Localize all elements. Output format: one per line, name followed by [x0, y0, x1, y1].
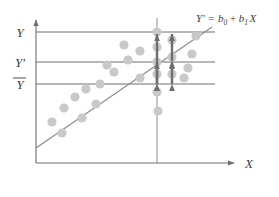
data-point [179, 73, 188, 82]
svg-text:Y′=b0+b1X: Y′=b0+b1X [196, 12, 257, 27]
equation-b0-subscript: 0 [223, 18, 227, 27]
equation-b1-subscript: 1 [244, 18, 248, 27]
regression-equation: Y′=b0+b1X [196, 12, 257, 27]
data-point [57, 128, 66, 137]
equation-equals: = [208, 12, 215, 24]
y-axis-label-mean: Y [16, 77, 25, 92]
data-point [191, 31, 200, 40]
data-point [109, 67, 118, 76]
data-point [183, 63, 192, 72]
equation-X: X [248, 12, 257, 24]
plot-canvas: Y Y′ Y X Y′=b0+b1X [0, 0, 279, 197]
data-point [59, 103, 68, 112]
equation-prime: ′ [202, 12, 205, 24]
data-point [47, 117, 56, 126]
data-point [91, 99, 100, 108]
data-point [135, 73, 144, 82]
data-point [119, 40, 128, 49]
data-point [95, 79, 104, 88]
y-axis-label-mean-group: Y [13, 77, 26, 92]
data-point [152, 87, 161, 96]
equation-plus: + [229, 12, 236, 24]
data-point [81, 84, 90, 93]
data-point [123, 55, 132, 64]
y-axis-label-top: Y [16, 25, 25, 40]
data-point [135, 46, 144, 55]
scatter-points [47, 27, 200, 137]
data-point [187, 49, 196, 58]
y-axis-label-predicted: Y′ [15, 55, 25, 70]
axis-frame [36, 20, 234, 163]
data-point [153, 106, 162, 115]
x-axis-label: X [244, 156, 254, 171]
data-point [70, 92, 79, 101]
regression-diagram: Y Y′ Y X Y′=b0+b1X [0, 0, 279, 197]
data-point [77, 113, 86, 122]
data-point [102, 60, 111, 69]
